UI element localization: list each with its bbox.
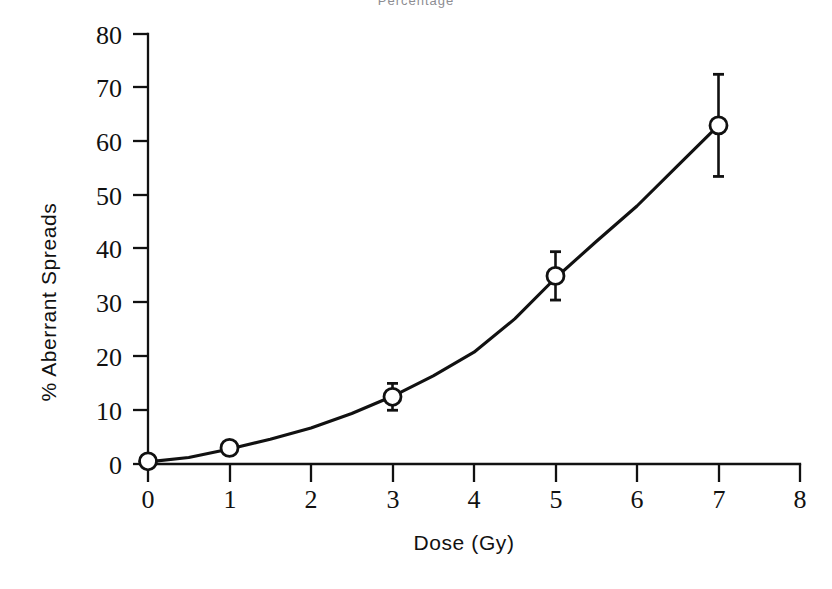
data-point-marker bbox=[710, 117, 727, 134]
x-tick-label-7: 7 bbox=[713, 485, 726, 514]
x-tick-label-0: 0 bbox=[142, 485, 155, 514]
y-tick-label-20: 20 bbox=[96, 343, 122, 372]
y-tick-label-0: 0 bbox=[109, 451, 122, 480]
y-tick-label-80: 80 bbox=[96, 21, 122, 50]
fitted-curve bbox=[148, 125, 719, 461]
y-tick-label-50: 50 bbox=[96, 182, 122, 211]
x-tick-label-2: 2 bbox=[305, 485, 318, 514]
y-tick-label-60: 60 bbox=[96, 128, 122, 157]
data-point-marker bbox=[547, 267, 564, 284]
chart-canvas: Percentage 80 70 60 50 40 30 bbox=[0, 0, 832, 589]
y-axis-ticks bbox=[133, 34, 148, 464]
x-axis-tick-labels: 0 1 2 3 4 5 6 7 8 bbox=[142, 485, 807, 514]
x-tick-label-5: 5 bbox=[550, 485, 563, 514]
x-tick-label-4: 4 bbox=[468, 485, 481, 514]
x-axis: 0 1 2 3 4 5 6 7 8 Dose (Gy) bbox=[142, 464, 807, 554]
x-axis-ticks bbox=[148, 464, 800, 482]
data-point-marker bbox=[221, 439, 238, 456]
x-tick-label-8: 8 bbox=[794, 485, 807, 514]
x-tick-label-1: 1 bbox=[224, 485, 237, 514]
y-tick-label-10: 10 bbox=[96, 397, 122, 426]
data-point-marker bbox=[384, 388, 401, 405]
data-markers-group bbox=[140, 117, 728, 470]
y-tick-label-30: 30 bbox=[96, 289, 122, 318]
y-tick-label-70: 70 bbox=[96, 74, 122, 103]
clipped-header-text: Percentage bbox=[378, 0, 455, 8]
data-point-marker bbox=[140, 453, 157, 470]
y-axis-tick-labels: 80 70 60 50 40 30 20 10 0 bbox=[96, 21, 122, 480]
y-axis: 80 70 60 50 40 30 20 10 0 % Aberrant Spr… bbox=[37, 21, 148, 480]
x-tick-label-3: 3 bbox=[387, 485, 400, 514]
error-bars-group bbox=[143, 74, 725, 464]
y-tick-label-40: 40 bbox=[96, 235, 122, 264]
chart-figure: Percentage 80 70 60 50 40 30 bbox=[0, 0, 832, 589]
y-axis-title: % Aberrant Spreads bbox=[37, 203, 60, 402]
x-axis-title: Dose (Gy) bbox=[413, 531, 514, 554]
data-series-group bbox=[140, 74, 728, 470]
x-tick-label-6: 6 bbox=[631, 485, 644, 514]
